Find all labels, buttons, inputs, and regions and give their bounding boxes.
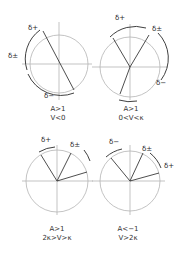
- panel-3: δ+ δ± A>1 2κ>V>κ: [22, 136, 93, 242]
- label-delta-plusminus: δ±: [70, 141, 80, 149]
- panel-4: δ− δ± δ+ A<−1 V>2κ: [92, 138, 174, 242]
- label-delta-minus: δ−: [109, 138, 119, 146]
- condition-v: V<0: [50, 114, 65, 122]
- panel-2: δ+ δ± δ− A>1 0<V<κ: [92, 14, 168, 122]
- condition-a: A>1: [123, 105, 138, 113]
- spoke: [41, 155, 57, 181]
- panel-1: δ+ δ± δ− A>1 V<0: [8, 22, 92, 122]
- label-delta-plus: δ+: [28, 24, 38, 32]
- label-delta-minus: δ−: [156, 79, 166, 87]
- label-delta-plus: δ+: [41, 136, 51, 144]
- condition-a: A>1: [49, 225, 64, 233]
- phase-diagram-figure: δ+ δ± δ− A>1 V<0 δ+ δ± δ− A>1 0<V<κ δ+ δ…: [0, 0, 181, 258]
- label-delta-plusminus: δ±: [8, 52, 18, 60]
- spoke: [43, 31, 74, 90]
- spoke: [130, 153, 143, 181]
- spoke: [113, 38, 130, 67]
- spoke: [57, 153, 71, 181]
- spoke: [111, 158, 130, 181]
- condition-v: V>2κ: [118, 234, 137, 242]
- spoke: [130, 35, 149, 67]
- spoke: [120, 67, 130, 94]
- condition-v: 2κ>V>κ: [42, 234, 71, 242]
- label-delta-plusminus: δ±: [142, 145, 152, 153]
- spoke: [57, 172, 87, 181]
- label-delta-plusminus: δ±: [152, 25, 162, 33]
- spoke: [130, 173, 159, 181]
- condition-a: A<−1: [118, 225, 139, 233]
- arc-delta-plusminus: [84, 150, 90, 161]
- arc-delta-minus: [119, 100, 137, 102]
- condition-v: 0<V<κ: [118, 114, 143, 122]
- arc-delta-plus: [110, 26, 146, 37]
- label-delta-plus: δ+: [164, 162, 174, 170]
- condition-a: A>1: [50, 105, 65, 113]
- label-delta-minus: δ−: [44, 92, 54, 100]
- label-delta-plus: δ+: [115, 14, 125, 22]
